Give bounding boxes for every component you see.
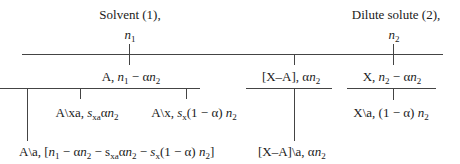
solute-amount: n2 — [389, 28, 400, 41]
subscript: 2 — [395, 34, 400, 44]
text: (1 − α) — [160, 144, 199, 159]
solute-branch-line — [347, 88, 436, 89]
text: − α — [390, 69, 411, 84]
subscript: 1 — [131, 34, 136, 44]
text: (1 − α) — [187, 105, 226, 120]
solute-label: Dilute solute (2), — [352, 8, 440, 21]
complex-connector — [294, 54, 295, 65]
solvent-solvated-x-label: A\x, sx(1 − α) n2 — [151, 106, 237, 119]
text: − — [136, 144, 150, 159]
text: A\x, — [151, 105, 177, 120]
solute-connector — [393, 44, 394, 65]
text: X, — [363, 69, 379, 84]
solvent-connector — [129, 44, 130, 65]
free-solute-label: X, n2 − αn2 — [363, 70, 422, 83]
complex-branch-line — [246, 88, 332, 89]
subscript: xa — [110, 151, 119, 161]
text: − α — [129, 69, 150, 84]
a-x-connector — [186, 88, 187, 99]
complex-label: [X–A], αn2 — [262, 70, 320, 83]
subscript: 2 — [321, 151, 326, 161]
text: − s — [91, 144, 110, 159]
text: A\a, [ — [19, 144, 49, 159]
free-solvent-bulk-label: A\a, [n1 − αn2 − sxaαn2 − sx(1 − α) n2] — [19, 145, 214, 158]
top-divider-line — [22, 54, 443, 55]
text: [X–A], α — [262, 69, 309, 84]
solvent-amount: n1 — [125, 28, 136, 41]
a-a-connector — [27, 88, 28, 141]
text: X\a, (1 − α) — [353, 105, 417, 120]
subscript: 2 — [424, 112, 429, 122]
subscript: 2 — [232, 112, 237, 122]
text: [X–A]\a, α — [258, 144, 315, 159]
subscript: 2 — [114, 112, 119, 122]
solvent-label: Solvent (1), — [99, 8, 160, 21]
solute-free-a-label: X\a, (1 − α) n2 — [353, 106, 428, 119]
subscript: 2 — [316, 76, 321, 86]
text: A, — [102, 69, 118, 84]
complex-a-connector — [294, 88, 295, 141]
solvent-branch-line — [0, 88, 200, 89]
subscript: 2 — [417, 76, 422, 86]
x-a-connector — [393, 88, 394, 100]
free-solvent-label: A, n1 − αn2 — [102, 70, 161, 83]
text: ] — [210, 144, 214, 159]
subscript: 2 — [156, 76, 161, 86]
text: A\xa, — [55, 105, 87, 120]
complex-free-a-label: [X–A]\a, αn2 — [258, 145, 326, 158]
a-xa-connector — [80, 88, 81, 99]
solute-text: Dilute solute (2), — [352, 7, 440, 22]
solvent-solvated-xa-label: A\xa, sxaαn2 — [55, 106, 118, 119]
text: − α — [60, 144, 81, 159]
solvent-text: Solvent (1), — [99, 7, 160, 22]
